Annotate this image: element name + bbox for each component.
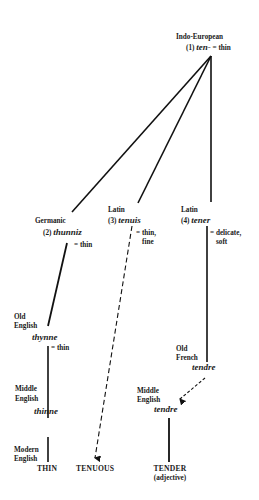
tener-form: tener <box>191 215 210 225</box>
germanic-node: (2) thunniz <box>43 228 82 238</box>
line-root-tenuis <box>138 56 211 203</box>
line-thunniz-thynne <box>48 243 67 326</box>
tenuis-number: (3) <box>108 217 116 225</box>
tener-gloss-1: = delicate, <box>210 229 241 238</box>
tenuis-language: Latin <box>108 206 125 215</box>
old-english-gloss: = thin <box>51 344 69 353</box>
tenuis-gloss-2: fine <box>142 238 154 247</box>
middle-english-label-1: Middle <box>15 385 37 394</box>
tener-node: (4) tener <box>181 216 210 226</box>
germanic-number: (2) <box>43 229 51 237</box>
root-node: (1) ten- = thin <box>186 43 231 53</box>
germanic-language: Germanic <box>35 217 66 226</box>
line-tenuis-tenuous <box>95 226 132 458</box>
line-oldfrench-middleenglish <box>180 378 205 399</box>
tenuis-node: (3) tenuis <box>108 216 141 226</box>
germanic-gloss: = thin <box>74 241 92 250</box>
old-english-label-1: Old <box>14 313 26 322</box>
modern-english-label-2: English <box>14 455 37 464</box>
modern-english-label-1: Modern <box>14 446 39 455</box>
old-french-label-1: Old <box>176 345 188 354</box>
root-gloss: = thin <box>212 44 230 52</box>
word-tenuous: TENUOUS <box>76 465 114 474</box>
tener-gloss-2: soft <box>216 238 227 247</box>
me-tendre-form: tendre <box>154 405 178 414</box>
tener-language: Latin <box>181 206 198 215</box>
old-french-form: tendre <box>192 363 216 372</box>
tener-number: (4) <box>181 217 189 225</box>
word-tender: TENDER <box>148 465 192 474</box>
old-english-label-2: English <box>14 322 37 331</box>
middle-english-label-2: English <box>15 395 38 404</box>
root-number: (1) <box>186 44 194 52</box>
tenuis-form: tenuis <box>118 215 141 225</box>
word-thin: THIN <box>37 465 57 474</box>
germanic-form: thunniz <box>53 227 82 237</box>
line-root-germanic <box>72 56 211 212</box>
middle-english-form: thinne <box>34 407 58 416</box>
root-language: Indo-European <box>176 33 223 42</box>
old-english-form: thynne <box>32 333 58 342</box>
tenuis-gloss-1: = thin, <box>136 229 156 238</box>
word-tender-note: (adjective) <box>148 474 192 483</box>
tree-connectors <box>0 0 259 500</box>
root-form: ten- <box>196 42 211 52</box>
me-tendre-label-1: Middle <box>137 387 159 396</box>
